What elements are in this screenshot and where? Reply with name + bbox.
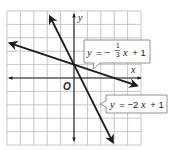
eq2-y: y xyxy=(109,99,115,110)
eq1-y: y xyxy=(86,47,92,58)
eq2-x: x xyxy=(140,99,146,110)
line-y-neg-2x-plus-1 xyxy=(50,16,113,142)
origin-label: O xyxy=(63,81,71,92)
svg-text:x + 1: x + 1 xyxy=(122,47,146,58)
svg-text:y = −2 x + 1: y = −2 x + 1 xyxy=(109,99,164,110)
coordinate-graph: x y O y = − 1 3 x + 1 y = −2 x + 1 xyxy=(0,0,176,150)
svg-text:y = −: y = − xyxy=(86,47,110,58)
eq1-equals: = − xyxy=(96,47,110,58)
eq1-x: x xyxy=(122,47,128,58)
eq2-equals: = −2 xyxy=(119,99,138,110)
x-axis-label: x xyxy=(130,64,136,75)
y-axis-label: y xyxy=(77,12,83,23)
eq1-denominator: 3 xyxy=(116,51,120,58)
callout-eq2: y = −2 x + 1 xyxy=(100,95,167,113)
eq2-rest: + 1 xyxy=(150,99,163,110)
eq1-numerator: 1 xyxy=(116,42,120,49)
eq1-rest: + 1 xyxy=(132,47,145,58)
